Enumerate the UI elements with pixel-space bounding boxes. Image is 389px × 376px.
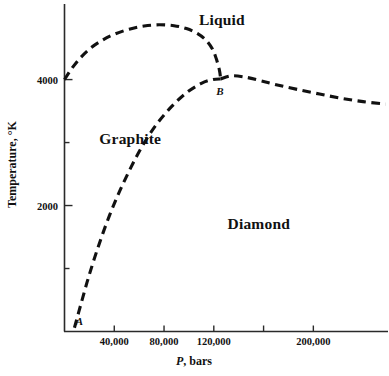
y-axis-title: Temperature, °K [5, 121, 20, 208]
x-axis-title-units: , bars [183, 354, 212, 368]
region-label-liquid: Liquid [199, 11, 245, 29]
y-tick-label: 4000 [0, 74, 58, 85]
curve-graphite-melting-curve [65, 25, 221, 80]
axis-lines [64, 4, 388, 332]
curve-graphite-diamond-boundary [74, 79, 220, 328]
x-tick-label: 120,000 [197, 336, 231, 347]
x-tick-label: 80,000 [150, 336, 179, 347]
phase-diagram-figure: Liquid Graphite Diamond A B 40,00080,000… [0, 0, 389, 376]
x-axis-title: P, bars [176, 354, 212, 369]
plot-canvas [0, 0, 389, 376]
region-label-diamond: Diamond [227, 215, 290, 233]
region-label-graphite: Graphite [99, 130, 161, 148]
curve-diamond-melting-curve [221, 76, 386, 104]
y-tick-marks [65, 80, 73, 269]
point-label-a: A [76, 315, 83, 327]
point-label-b: B [216, 85, 223, 97]
x-tick-marks [114, 326, 313, 332]
phase-boundary-curves [65, 25, 386, 328]
x-tick-label: 200,000 [296, 336, 330, 347]
x-tick-label: 40,000 [100, 336, 129, 347]
